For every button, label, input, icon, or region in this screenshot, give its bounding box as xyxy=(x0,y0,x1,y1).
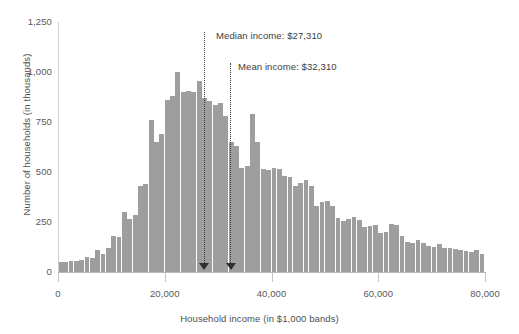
x-tick-mark xyxy=(272,273,273,282)
x-tick-mark xyxy=(58,273,59,282)
mean-income-label: Mean income: $32,310 xyxy=(238,61,337,72)
mean-income-marker-line xyxy=(230,63,231,263)
histogram-chart: 02505007501,0001,250 020,00040,00060,000… xyxy=(0,0,519,334)
x-tick-label: 80,000 xyxy=(470,288,500,299)
median-income-marker-line xyxy=(204,32,205,263)
median-income-label: Median income: $27,310 xyxy=(216,30,322,41)
x-tick-label: 60,000 xyxy=(363,288,393,299)
x-tick-mark xyxy=(378,273,379,282)
x-tick-mark xyxy=(485,273,486,282)
y-axis-title: Number of households (in thousands) xyxy=(21,25,32,245)
x-tick-label: 0 xyxy=(55,288,60,299)
x-axis-ticks: 020,00040,00060,00080,000 xyxy=(0,0,519,334)
x-tick-label: 20,000 xyxy=(150,288,180,299)
x-tick-label: 40,000 xyxy=(257,288,287,299)
mean-income-marker-arrow xyxy=(226,263,236,270)
x-tick-mark xyxy=(165,273,166,282)
median-income-marker-arrow xyxy=(199,263,209,270)
x-axis-title: Household income (in $1,000 bands) xyxy=(0,313,519,324)
